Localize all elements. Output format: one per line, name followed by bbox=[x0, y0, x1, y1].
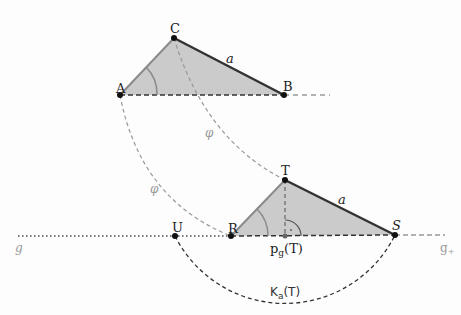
rotation-arc-a bbox=[120, 95, 231, 236]
label-line-g: g bbox=[15, 241, 23, 255]
label-side-a-bottom: a bbox=[338, 192, 346, 207]
right-angle-dot bbox=[290, 229, 292, 231]
label-side-a-top: a bbox=[226, 51, 234, 66]
label-b: B bbox=[283, 79, 293, 94]
triangle-rst bbox=[231, 180, 395, 236]
side-rs bbox=[231, 235, 395, 236]
label-a: A bbox=[115, 81, 126, 96]
label-c: C bbox=[170, 21, 180, 36]
label-t: T bbox=[281, 163, 290, 178]
label-r: R bbox=[228, 221, 239, 236]
geometry-diagram: A B C a T R S a U pg(T) φ φ Ka(T) g g+ bbox=[0, 0, 461, 315]
point-foot-t[interactable] bbox=[283, 234, 288, 239]
label-s: S bbox=[392, 218, 401, 233]
label-phi-1: φ bbox=[205, 126, 214, 140]
label-circle-ka: Ka(T) bbox=[270, 285, 300, 301]
label-phi-2: φ bbox=[150, 182, 159, 196]
label-foot: pg(T) bbox=[270, 241, 303, 258]
label-ray-g-plus: g+ bbox=[440, 241, 454, 256]
label-u: U bbox=[172, 220, 183, 235]
triangle-abc bbox=[120, 38, 284, 95]
